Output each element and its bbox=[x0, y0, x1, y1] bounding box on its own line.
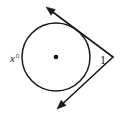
angle-number-label: 1 bbox=[100, 53, 106, 67]
arc-measure-label: x° bbox=[9, 52, 20, 64]
geometry-diagram-svg: x° 1 bbox=[0, 0, 121, 115]
upper-tangent-arrowhead-icon bbox=[46, 7, 55, 15]
upper-tangent-ray bbox=[51, 10, 113, 57]
geometry-figure-container: x° 1 bbox=[0, 0, 121, 115]
circle-center-dot bbox=[54, 55, 59, 60]
